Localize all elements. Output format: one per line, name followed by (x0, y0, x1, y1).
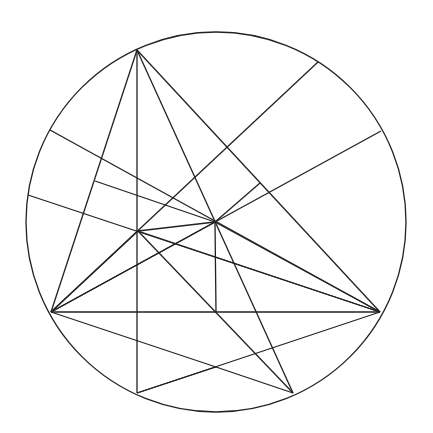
segment-F1-O (95, 181, 215, 222)
segment-A-C (137, 50, 380, 312)
segment-O-F2 (215, 183, 260, 222)
segment-P2-C (28, 195, 380, 312)
segment-H-O (138, 222, 215, 231)
circle-triangle-diagram (0, 0, 433, 433)
segments-group (28, 50, 381, 393)
segment-B-S (51, 312, 216, 367)
segment-O-M (215, 222, 216, 312)
